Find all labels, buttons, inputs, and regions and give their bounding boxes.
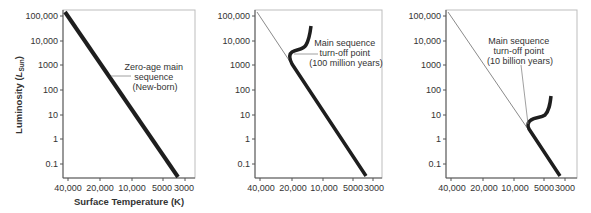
y-axis-title: Luminosity (LSun) [13, 56, 25, 134]
y-tick-label: 1 [436, 134, 441, 144]
x-tick-label: 40,000 [247, 183, 275, 193]
x-tick-label: 20,000 [86, 183, 114, 193]
plot-frame [255, 10, 382, 178]
y-tick-label: 0.1 [45, 159, 58, 169]
cluster-track-10gyr [528, 96, 560, 176]
x-tick-label: 10,000 [310, 183, 338, 193]
x-tick-label: 5000 [534, 183, 554, 193]
x-tick-label: 3000 [364, 183, 384, 193]
y-ticks: 100,000 10,000 1000 100 10 1 0.1 [25, 11, 63, 169]
x-axis-title: Surface Temperature (K) [74, 196, 184, 207]
y-tick-label: 10 [240, 110, 250, 120]
y-ticks: 100,000 10,000 1000 100 10 1 0.1 [408, 11, 446, 169]
x-tick-label: 3000 [174, 183, 194, 193]
y-tick-label: 100,000 [217, 11, 250, 21]
x-ticks: 40,000 20,000 10,000 5000 3000 [247, 178, 384, 193]
y-tick-label: 1000 [38, 60, 58, 70]
y-tick-label: 100,000 [25, 11, 58, 21]
annotation-turnoff-100myr: Main sequence turn-off point (100 millio… [309, 38, 383, 68]
x-tick-label: 3000 [555, 183, 575, 193]
y-tick-label: 10 [431, 110, 441, 120]
x-tick-label: 20,000 [279, 183, 307, 193]
y-tick-label: 10,000 [30, 36, 58, 46]
x-tick-label: 5000 [343, 183, 363, 193]
y-tick-label: 1 [245, 134, 250, 144]
x-ticks: 40,000 20,000 10,000 5000 3000 [54, 178, 194, 193]
hr-diagram-figure: 100,000 10,000 1000 100 10 1 0.1 40,000 … [0, 0, 591, 213]
panel-2: 100,000 10,000 1000 100 10 1 0.1 40,000 … [217, 10, 384, 193]
y-tick-label: 0.1 [428, 159, 441, 169]
x-tick-label: 20,000 [470, 183, 498, 193]
panel-3: 100,000 10,000 1000 100 10 1 0.1 40,000 … [408, 10, 577, 193]
y-tick-label: 10 [48, 110, 58, 120]
y-tick-label: 100 [426, 85, 441, 95]
x-tick-label: 40,000 [54, 183, 82, 193]
zams-curve [65, 12, 178, 177]
x-tick-label: 10,000 [501, 183, 529, 193]
y-tick-label: 1 [53, 134, 58, 144]
annotation-zams: Zero-age main sequence (New-born) [124, 62, 185, 92]
x-tick-label: 5000 [152, 183, 172, 193]
y-tick-label: 0.1 [237, 159, 250, 169]
x-tick-label: 40,000 [438, 183, 466, 193]
y-tick-label: 100 [235, 85, 250, 95]
y-tick-label: 100 [43, 85, 58, 95]
y-tick-label: 1000 [230, 60, 250, 70]
x-tick-label: 10,000 [118, 183, 146, 193]
annotation-turnoff-10gyr: Main sequence turn-off point (10 billion… [487, 36, 553, 66]
y-tick-label: 10,000 [413, 36, 441, 46]
y-tick-label: 100,000 [408, 11, 441, 21]
y-ticks: 100,000 10,000 1000 100 10 1 0.1 [217, 11, 255, 169]
x-ticks: 40,000 20,000 10,000 5000 3000 [438, 178, 575, 193]
panel-1: 100,000 10,000 1000 100 10 1 0.1 40,000 … [13, 10, 195, 207]
annotation-leader-line [521, 65, 528, 124]
y-tick-label: 1000 [421, 60, 441, 70]
y-tick-label: 10,000 [222, 36, 250, 46]
